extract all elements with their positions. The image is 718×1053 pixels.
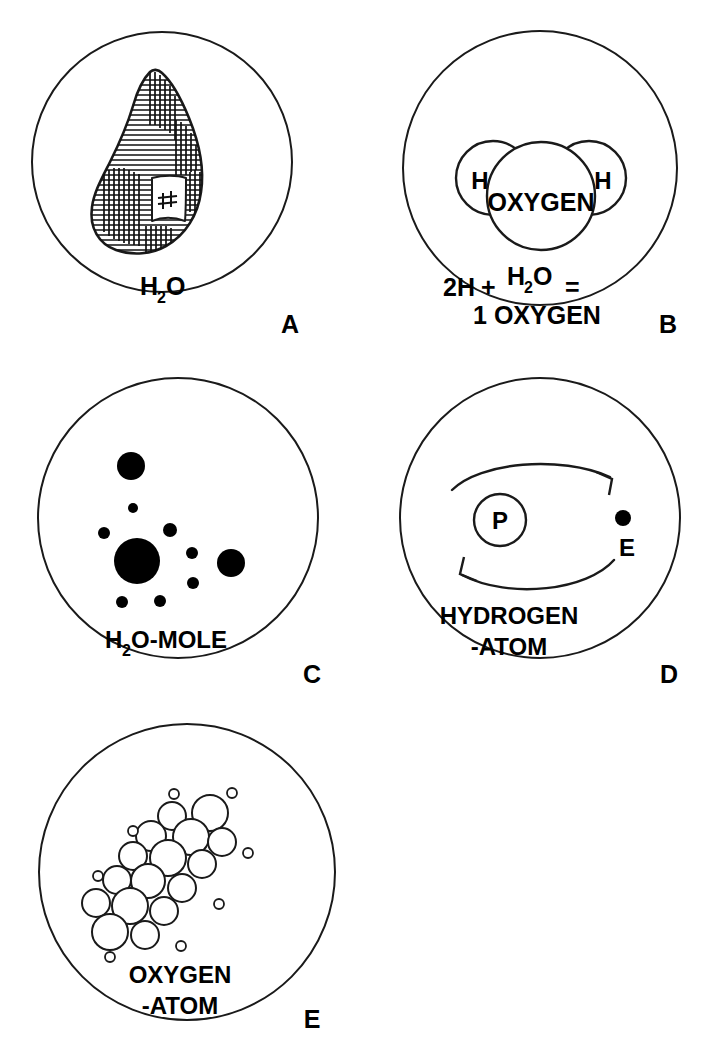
mole-particle [163,523,177,537]
nucleon-circle [92,914,128,950]
panel-c-caption-tail: O-MOLE [131,626,227,653]
electron-label: E [619,534,635,561]
panel-letter-e: E [304,1005,321,1033]
mole-particle [116,596,128,608]
oxygen-label: OXYGEN [488,188,595,216]
panel-letter-d: D [660,660,678,688]
nucleon-circle [131,921,159,949]
electron-circle [243,848,253,858]
equation-equals-sign: = [565,273,580,301]
panel-e: OXYGEN -ATOM E [39,724,335,1033]
nucleon-circle [208,828,236,856]
electron-circle [105,952,115,962]
panel-letter-b: B [659,310,677,338]
nucleon-circle [82,889,110,917]
panel-b: H H OXYGEN 2H + H 2 O = 1 OXYGEN B [403,31,677,338]
electron-circle [169,789,179,799]
proton-label: P [492,507,508,534]
panel-a: H 2 O A [32,32,299,338]
panel-c-caption-h: H [105,626,122,653]
panel-c-caption-subscript: 2 [122,642,131,659]
nucleon-circle [150,897,178,925]
droplet-inner-window [152,176,186,221]
equation-plus-sign: + [481,273,496,301]
panel-e-caption-line2: -ATOM [142,992,218,1019]
equation-term-o: O [533,262,552,290]
electron-dot [615,510,631,526]
panel-a-caption-o: O [166,272,185,300]
mole-particle [187,577,199,589]
equation-term-2h: 2H [443,273,475,301]
equation-term-h-subscript: 2 [524,279,533,296]
nucleon-circle [168,874,196,902]
electron-circle [176,941,186,951]
electron-circle [93,871,103,881]
mole-particle [128,503,138,513]
water-structure-figure: H 2 O A H H OXYGEN 2H + H 2 O = 1 OXYGEN… [0,0,718,1053]
panel-d-caption-line1: HYDROGEN [440,602,579,629]
mole-particle [117,452,145,480]
panel-d: P E HYDROGEN -ATOM D [400,378,680,688]
panel-letter-a: A [281,310,299,338]
mole-particle [114,538,160,584]
electron-circle [227,788,237,798]
nucleon-circle [188,850,216,878]
hydrogen-left-label: H [471,167,488,194]
mole-particle [154,595,166,607]
panel-a-caption-h: H [140,272,158,300]
panel-d-caption-line2: -ATOM [471,633,547,660]
panel-e-caption-line1: OXYGEN [129,961,232,988]
electron-circle [214,899,224,909]
hydrogen-right-label: H [594,167,611,194]
mole-particle [217,549,245,577]
panel-c-boundary-circle [38,378,318,658]
equation-term-h: H [507,262,525,290]
equation-result: 1 OXYGEN [473,301,601,329]
electron-circle [128,826,138,836]
mole-particle [186,547,198,559]
panel-a-caption-subscript: 2 [157,289,166,306]
mole-particle [98,527,110,539]
panel-letter-c: C [303,660,321,688]
panel-c: H 2 O-MOLE C [38,378,321,688]
